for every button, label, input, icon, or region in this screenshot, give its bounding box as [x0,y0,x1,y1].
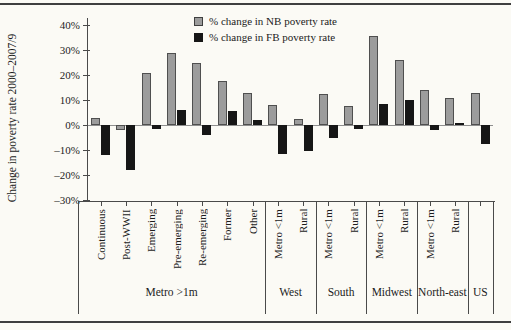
category-label-cell: Metro <1m [417,209,442,285]
category-label: Rural [398,209,410,285]
nb-series-swatch-icon [194,17,203,26]
bar-nb-US [471,93,480,126]
bar-fb-Former [228,111,237,125]
bar-nb-Rural [445,98,454,126]
bar-nb-Post-WWII [116,125,125,130]
category-tick [227,202,228,206]
category-label-cell: Metro <1m [316,209,341,285]
group-label-metrom: Metro >1m [78,286,265,312]
category-label-cell: Metro <1m [265,209,290,285]
category-label: Post-WWII [120,209,132,285]
category-tick [101,202,102,206]
bar-fb-Rural [455,123,464,126]
bar-fb-Continuous [101,125,110,155]
category-label: Re-emerging [196,209,208,285]
legend-label-fb: % change in FB poverty rate [209,31,335,44]
category-tick [354,202,355,206]
category-label-cell: Rural [341,209,366,285]
category-tick [480,202,481,206]
bar-fb-Other [253,120,262,125]
category-label: Pre-emerging [171,209,183,285]
group-separator [493,202,494,314]
category-tick [455,202,456,206]
y-tick-label: 40% [34,19,80,32]
category-label-cell: Rural [291,209,316,285]
top-rule [0,3,511,5]
bar-nb-Rural [294,119,303,125]
y-tick-label: –20% [34,169,80,182]
category-tick [253,202,254,206]
category-label-cell: Re-emerging [189,209,214,285]
bar-nb-Rural [344,106,353,125]
category-tick [379,202,380,206]
bar-fb-Rural [354,125,363,129]
category-label: Emerging [145,209,157,285]
category-label-cell: Rural [392,209,417,285]
bar-fb-Post-WWII [126,125,135,170]
bar-fb-Rural [405,100,414,125]
category-tick [177,202,178,206]
y-tick-label: 20% [34,69,80,82]
bar-nb-Metro <1m [268,105,277,125]
y-tick-label: –10% [34,144,80,157]
category-label: Rural [348,209,360,285]
group-label-west: West [265,286,316,312]
figure-page: Change in poverty rate 2000–2007/9 40%30… [0,0,511,330]
category-label: Metro <1m [322,209,334,285]
y-tick-label: 0% [34,119,80,132]
category-label: Rural [297,209,309,285]
y-tick-label: 30% [34,44,80,57]
y-axis-title: Change in poverty rate 2000–2007/9 [6,18,22,218]
bar-nb-Metro <1m [369,36,378,125]
bar-nb-Continuous [91,118,100,126]
bar-fb-Metro <1m [430,125,439,130]
category-label: Rural [449,209,461,285]
legend-item-nb: % change in NB poverty rate [194,15,337,28]
y-tick-label: 10% [34,94,80,107]
bar-nb-Rural [395,60,404,125]
category-tick [430,202,431,206]
group-label-midwest: Midwest [366,286,417,312]
bar-nb-Metro <1m [319,94,328,125]
bar-nb-Re-emerging [192,63,201,126]
category-label-cell: Metro <1m [366,209,391,285]
category-label-cell: Emerging [139,209,164,285]
bar-nb-Other [243,93,252,126]
category-tick [328,202,329,206]
bar-fb-US [481,125,490,144]
legend-label-nb: % change in NB poverty rate [209,15,337,28]
category-label: Other [247,209,259,285]
bar-fb-Re-emerging [202,125,211,135]
bar-nb-Emerging [142,73,151,126]
y-tick-label: –30% [34,194,80,207]
bar-fb-Metro <1m [278,125,287,154]
legend-item-fb: % change in FB poverty rate [194,31,337,44]
category-label-cell: Continuous [88,209,113,285]
category-label: Metro <1m [373,209,385,285]
group-label-us: US [468,286,493,312]
legend: % change in NB poverty rate % change in … [194,15,337,47]
bar-fb-Emerging [152,125,161,129]
bar-fb-Rural [304,125,313,151]
chart-plot-area [88,25,493,200]
category-axis-band: ContinuousPost-WWIIEmergingPre-emergingR… [78,201,495,314]
bottom-rule [0,321,511,323]
bar-fb-Pre-emerging [177,110,186,125]
category-label: Continuous [95,209,107,285]
category-label-cell: Former [215,209,240,285]
category-tick [404,202,405,206]
bar-fb-Metro <1m [379,104,388,125]
category-label-cell: Other [240,209,265,285]
category-label: Former [221,209,233,285]
bar-fb-Metro <1m [329,125,338,138]
bar-nb-Metro <1m [420,90,429,125]
group-label-northeast: North-east [417,286,468,312]
category-tick [126,202,127,206]
bar-nb-Pre-emerging [167,53,176,126]
fb-series-swatch-icon [194,33,203,42]
bar-nb-Former [218,81,227,125]
group-label-south: South [316,286,367,312]
category-label-cell: Post-WWII [113,209,138,285]
category-tick [151,202,152,206]
category-label-cell: Rural [442,209,467,285]
